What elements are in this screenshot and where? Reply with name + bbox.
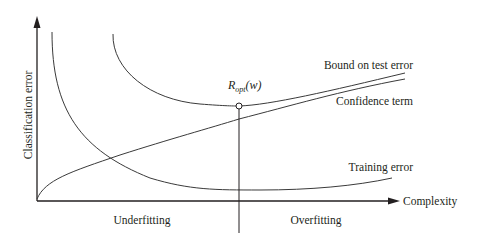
y-axis-arrowhead-icon (34, 16, 41, 28)
underfitting-label: Underfitting (114, 214, 171, 227)
confidence-curve-label: Confidence term (336, 95, 413, 107)
bound-curve-label: Bound on test error (324, 59, 413, 71)
x-axis-label: Complexity (403, 195, 458, 208)
optimum-label-arg: (w) (246, 78, 262, 92)
training-error-curve (52, 32, 392, 190)
overfitting-label: Overfitting (290, 214, 341, 227)
y-axis-label: Classification error (22, 71, 34, 160)
optimum-point-icon (236, 103, 242, 109)
axes (34, 16, 401, 205)
x-axis-arrowhead-icon (388, 198, 400, 205)
training-curve-label: Training error (349, 161, 414, 174)
optimum-label: Ropt(w) (227, 78, 262, 94)
structural-risk-diagram: Classification error Complexity Bound on… (0, 0, 478, 241)
